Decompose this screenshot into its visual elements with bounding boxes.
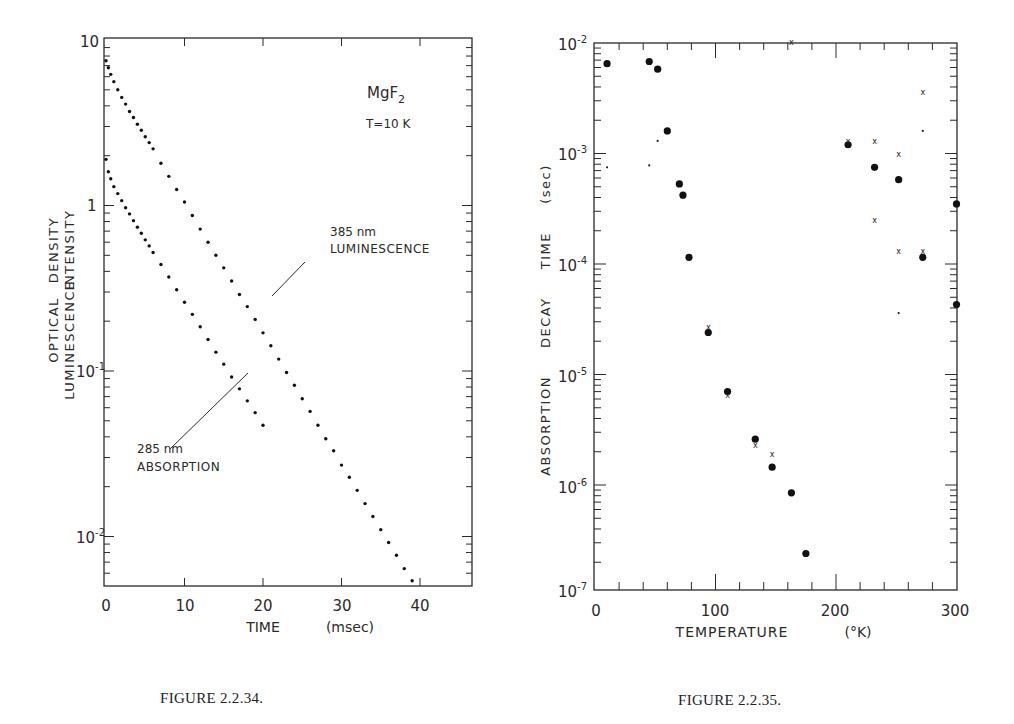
data-point bbox=[277, 357, 280, 360]
data-point bbox=[238, 293, 241, 296]
data-point-cross: x bbox=[789, 38, 794, 47]
data-point bbox=[109, 177, 112, 180]
svg-text:ABSORPTION DECAY TIME: ABSORPTION DECAY TIME (sec) bbox=[538, 164, 553, 476]
data-point bbox=[120, 199, 123, 202]
data-point bbox=[151, 251, 154, 254]
x-axis-unit: (msec) bbox=[326, 619, 374, 635]
data-point bbox=[191, 313, 194, 316]
data-point bbox=[301, 397, 304, 400]
data-point bbox=[175, 188, 178, 191]
data-point bbox=[308, 410, 311, 413]
data-point-cross: x bbox=[770, 450, 775, 459]
data-point bbox=[107, 170, 110, 173]
data-point bbox=[269, 344, 272, 347]
y-tick-1e-3: 10-3 bbox=[558, 144, 587, 164]
chart-luminescence-decay: 10 1 10-1 10-2 0 10 20 30 40 TIME (msec)… bbox=[46, 33, 472, 635]
data-point bbox=[112, 185, 115, 188]
y-tick-1: 1 bbox=[87, 197, 97, 215]
data-point bbox=[116, 88, 119, 91]
data-point bbox=[124, 206, 127, 209]
y-axis-label: ABSORPTION DECAY TIME (sec) bbox=[538, 164, 553, 476]
data-point bbox=[253, 411, 256, 414]
data-point-circle bbox=[603, 60, 610, 67]
data-point-cross: x bbox=[896, 150, 901, 159]
svg-text:OPTICAL: OPTICAL bbox=[46, 297, 61, 363]
data-point bbox=[222, 266, 225, 269]
data-point bbox=[109, 73, 112, 76]
data-point bbox=[167, 275, 170, 278]
data-point bbox=[128, 110, 131, 113]
series-label-285-line1: 285 nm bbox=[137, 442, 183, 456]
data-point-cross: x bbox=[706, 323, 711, 332]
data-point-small bbox=[922, 130, 924, 132]
data-point bbox=[371, 515, 374, 518]
x-axis-label: TIME bbox=[245, 619, 280, 635]
data-point-small bbox=[648, 164, 650, 166]
data-point bbox=[222, 362, 225, 365]
x-tick-0: 0 bbox=[591, 602, 601, 620]
data-point bbox=[159, 162, 162, 165]
data-point bbox=[175, 288, 178, 291]
data-point-circle bbox=[654, 66, 661, 73]
svg-text:LUMINESCENCE: LUMINESCENCE bbox=[62, 280, 77, 400]
x-tick-200: 200 bbox=[821, 602, 850, 620]
data-point bbox=[246, 399, 249, 402]
data-points bbox=[104, 59, 414, 583]
x-tick-40: 40 bbox=[410, 597, 429, 615]
data-point bbox=[183, 301, 186, 304]
data-point-cross: x bbox=[753, 441, 758, 450]
data-point bbox=[128, 212, 131, 215]
data-point bbox=[151, 147, 154, 150]
y-tick-1e-4: 10-4 bbox=[558, 255, 587, 275]
x-tick-30: 30 bbox=[332, 597, 351, 615]
data-point bbox=[324, 437, 327, 440]
data-point bbox=[410, 579, 413, 582]
data-point bbox=[238, 387, 241, 390]
data-point bbox=[132, 219, 135, 222]
figure-canvas: 10 1 10-1 10-2 0 10 20 30 40 TIME (msec)… bbox=[0, 0, 1014, 724]
data-point-small bbox=[657, 140, 659, 142]
data-point bbox=[144, 135, 147, 138]
data-point-circle bbox=[871, 164, 878, 171]
y-tick-1e-7: 10-7 bbox=[558, 581, 587, 601]
svg-text:DENSITY: DENSITY bbox=[46, 217, 61, 283]
data-point bbox=[206, 338, 209, 341]
axis-ticks bbox=[594, 43, 957, 590]
data-point-circle bbox=[664, 127, 671, 134]
data-point-circle bbox=[802, 550, 809, 557]
data-point bbox=[363, 502, 366, 505]
series-label-385-line1: 385 nm bbox=[330, 225, 376, 239]
data-point bbox=[159, 263, 162, 266]
data-point-cross: x bbox=[846, 137, 851, 146]
data-points: xxxxxxxxxxxx bbox=[603, 38, 960, 557]
x-axis-unit: (°K) bbox=[844, 624, 871, 640]
y-tick-0.1: 10-1 bbox=[76, 361, 105, 381]
data-point-cross: x bbox=[872, 137, 877, 146]
data-point bbox=[395, 554, 398, 557]
data-point-circle bbox=[679, 192, 686, 199]
callout-line-285 bbox=[170, 373, 248, 449]
axis-ticks bbox=[104, 38, 472, 586]
x-tick-20: 20 bbox=[253, 597, 272, 615]
data-point-cross: x bbox=[872, 216, 877, 225]
data-point-circle bbox=[953, 301, 960, 308]
data-point bbox=[356, 489, 359, 492]
data-point-cross: x bbox=[725, 391, 730, 400]
data-point bbox=[104, 59, 107, 62]
data-point bbox=[285, 371, 288, 374]
x-axis-label: TEMPERATURE bbox=[675, 624, 789, 640]
data-point bbox=[147, 244, 150, 247]
data-point bbox=[112, 80, 115, 83]
data-point-circle bbox=[676, 180, 683, 187]
material-label: MgF2 bbox=[367, 84, 405, 106]
chart-absorption-decay-time: xxxxxxxxxxxx 10-2 10-3 10-4 10-5 10-6 10… bbox=[538, 34, 969, 640]
data-point bbox=[246, 305, 249, 308]
data-point bbox=[348, 476, 351, 479]
plot-frame bbox=[104, 38, 472, 586]
data-point bbox=[199, 227, 202, 230]
y-tick-1e-2: 10-2 bbox=[558, 34, 587, 54]
data-point bbox=[261, 424, 264, 427]
data-point-circle bbox=[953, 200, 960, 207]
callout-line-385 bbox=[272, 262, 305, 296]
data-point bbox=[191, 214, 194, 217]
